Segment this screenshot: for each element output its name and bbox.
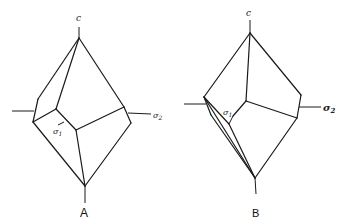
panel-a-crystal-edges (33, 38, 131, 186)
panel-a-sigma2-axis (128, 113, 151, 114)
panel-b-caption: B (252, 207, 259, 219)
panel-a-sigma1-label: σ1 (53, 127, 62, 137)
panel-b: c σ1 σ2 B (184, 8, 335, 219)
panel-b-sigma1-label: σ1 (223, 108, 232, 118)
crystal-diagram-figure: c σ1 σ2 A c (0, 0, 342, 224)
panel-a-caption: A (80, 206, 88, 220)
panel-a-sigma2-label: σ2 (153, 111, 162, 121)
panel-a-c-label: c (76, 13, 81, 23)
panel-b-crystal-edges (204, 33, 301, 178)
panel-b-c-label: c (246, 8, 251, 18)
panel-b-sigma2-label: σ2 (323, 102, 335, 115)
panel-b-bottom-axis (255, 178, 256, 194)
panel-a-sigma1-tick (58, 122, 64, 125)
panel-a: c σ1 σ2 A (12, 13, 162, 220)
